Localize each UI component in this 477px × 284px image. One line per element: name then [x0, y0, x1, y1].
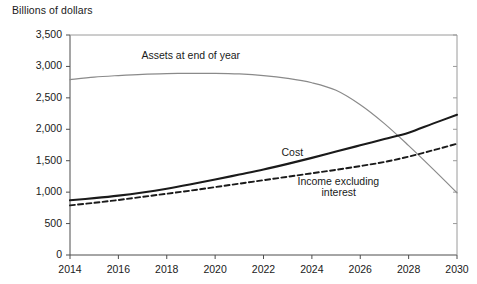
axis-lines: [70, 35, 457, 255]
series-line: [70, 73, 457, 192]
y-tick-label: 3,500: [18, 28, 62, 40]
x-tick-label: 2022: [244, 263, 284, 275]
y-tick-label: 1,000: [18, 185, 62, 197]
y-axis-ticks-right: [453, 35, 457, 224]
y-tick-label: 2,500: [18, 91, 62, 103]
series-annotation-label: Assets at end of year: [141, 49, 240, 61]
y-tick-label: 1,500: [18, 154, 62, 166]
x-tick-label: 2014: [50, 263, 90, 275]
x-tick-label: 2026: [340, 263, 380, 275]
x-tick-label: 2030: [437, 263, 477, 275]
x-tick-label: 2018: [147, 263, 187, 275]
x-axis-ticks: [70, 255, 457, 259]
x-tick-label: 2028: [389, 263, 429, 275]
series-annotation-label: interest: [321, 186, 355, 198]
series-line: [70, 115, 457, 200]
series-line: [70, 144, 457, 206]
y-tick-label: 0: [18, 248, 62, 260]
plot-area: [0, 0, 477, 284]
x-tick-label: 2024: [292, 263, 332, 275]
series-annotation-label: Cost: [282, 146, 304, 158]
series-lines: [70, 73, 457, 205]
y-tick-label: 3,000: [18, 59, 62, 71]
y-tick-label: 500: [18, 217, 62, 229]
y-tick-label: 2,000: [18, 122, 62, 134]
y-axis-ticks: [66, 35, 70, 255]
x-tick-label: 2016: [98, 263, 138, 275]
x-tick-label: 2020: [195, 263, 235, 275]
chart-figure: Billions of dollars 05001,0001,5002,0002…: [0, 0, 477, 284]
